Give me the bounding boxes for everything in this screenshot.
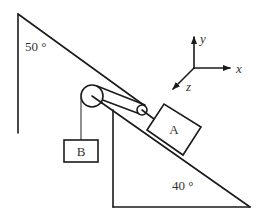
y-axis-label: y xyxy=(198,31,206,46)
x-axis-label: x xyxy=(235,61,242,76)
z-axis-label: z xyxy=(185,79,191,94)
block-b: B xyxy=(64,140,98,162)
coordinate-axes: y x z xyxy=(173,31,242,94)
diagram-canvas: 50 ° 40 ° B A xyxy=(0,0,261,219)
pulley xyxy=(81,85,103,107)
block-a: A xyxy=(147,104,201,155)
physics-incline-pulley-diagram: 50 ° 40 ° B A xyxy=(0,0,261,219)
block-b-label: B xyxy=(77,144,86,159)
angle-40-label: 40 ° xyxy=(172,178,193,193)
block-a-label: A xyxy=(169,122,179,137)
angle-50-label: 50 ° xyxy=(25,39,46,54)
